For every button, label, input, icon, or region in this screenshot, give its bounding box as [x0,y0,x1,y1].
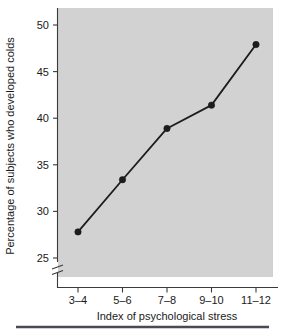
y-tick-label-50: 50 [37,19,49,31]
y-tick-label-25: 25 [37,252,49,264]
figure-container: 50 45 40 35 30 25 3–4 5–6 7–8 9–10 11–12… [0,0,281,333]
x-tick-label-5: 11–12 [241,294,271,306]
y-axis-title: Percentage of subjects who developed col… [4,37,16,255]
x-axis-title: Index of psychological stress [97,310,238,322]
data-point-3 [164,125,170,131]
data-point-1 [75,229,81,235]
data-point-5 [253,41,259,47]
y-tick-label-30: 30 [37,205,49,217]
x-tick-label-4: 9–10 [199,294,223,306]
y-tick-label-40: 40 [37,112,49,124]
plot-background [58,8,273,277]
y-tick-label-35: 35 [37,159,49,171]
data-point-2 [119,177,125,183]
data-point-4 [208,102,214,108]
line-chart: 50 45 40 35 30 25 3–4 5–6 7–8 9–10 11–12… [0,0,281,333]
x-tick-label-1: 3–4 [69,294,87,306]
y-tick-label-45: 45 [37,66,49,78]
x-tick-label-2: 5–6 [113,294,131,306]
x-tick-label-3: 7–8 [158,294,176,306]
